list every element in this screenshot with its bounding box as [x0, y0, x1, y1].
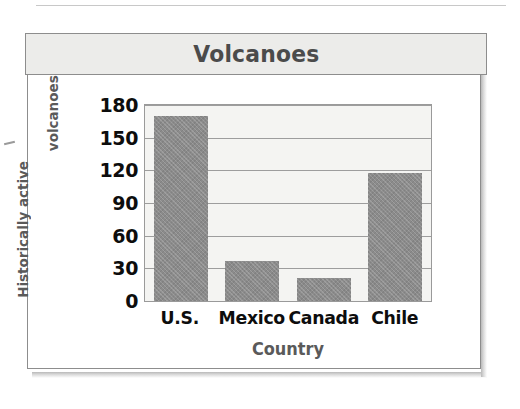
x-axis-title: Country — [151, 339, 425, 359]
y-tick-label-150: 150 — [100, 127, 138, 149]
bar-chile — [368, 173, 422, 301]
y-tick-label-30: 30 — [112, 257, 138, 279]
y-tick-label-60: 60 — [112, 225, 138, 247]
y-axis-tick-labels: 1801501209060300 — [82, 104, 138, 302]
y-tick-label-120: 120 — [100, 159, 138, 181]
y-tick-label-180: 180 — [100, 94, 138, 116]
x-axis-tick-labels: U.S.MexicoCanadaChile — [144, 307, 432, 333]
y-tick-label-90: 90 — [112, 192, 138, 214]
figure-card-shadow-right — [481, 40, 487, 377]
bar-us — [154, 116, 208, 301]
y-axis-title: Historically active volcanoes — [15, 93, 61, 283]
y-tick-label-0: 0 — [125, 290, 138, 312]
x-tick-label-canada: Canada — [288, 307, 357, 328]
bar-chart: Historically active volcanoes 1801501209… — [27, 75, 481, 369]
y-axis-title-line-1: Historically active — [15, 161, 31, 298]
chart-title: Volcanoes — [193, 41, 319, 67]
x-tick-label-mexico: Mexico — [217, 307, 286, 328]
page-scan-artifact-left-mark — [4, 141, 15, 146]
bar-canada — [297, 278, 351, 301]
chart-title-banner: Volcanoes — [25, 33, 487, 75]
page-scan-artifact-top-rule — [36, 5, 506, 6]
x-tick-label-us: U.S. — [145, 307, 214, 328]
figure-card-shadow-bottom — [32, 372, 487, 378]
bars-layer — [145, 105, 431, 301]
y-axis-title-line-2: volcanoes — [45, 76, 61, 152]
bar-mexico — [225, 261, 279, 301]
x-tick-label-chile: Chile — [360, 307, 429, 328]
